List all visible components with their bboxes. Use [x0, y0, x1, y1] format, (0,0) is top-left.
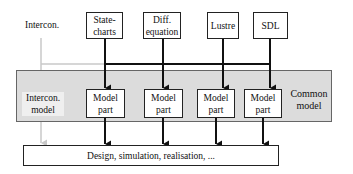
source-label-line2: equation: [146, 26, 179, 38]
intercon-model-line2: model: [22, 104, 64, 116]
model-part-line1: Model: [204, 92, 229, 104]
model-part-box: Model part: [86, 89, 125, 118]
model-part-line1: Model: [151, 92, 176, 104]
source-label-line2: charts: [93, 26, 116, 38]
model-part-line1: Model: [251, 92, 276, 104]
common-model-line2: model: [287, 100, 331, 112]
source-box-sdl: SDL: [253, 12, 288, 39]
model-part-line2: part: [98, 104, 113, 116]
common-model-label: Common model: [287, 88, 331, 112]
common-model-line1: Common: [287, 88, 331, 100]
model-part-line2: part: [209, 104, 224, 116]
target-box: Design, simulation, realisation, ...: [23, 145, 279, 166]
intercon-model-line1: Intercon.: [22, 92, 64, 104]
source-box-statecharts: State- charts: [86, 12, 123, 39]
target-label: Design, simulation, realisation, ...: [87, 150, 215, 162]
model-part-box: Model part: [144, 89, 183, 118]
model-part-box: Model part: [197, 89, 235, 118]
source-box-diff-equation: Diff. equation: [143, 12, 181, 39]
model-part-line2: part: [156, 104, 171, 116]
source-label: SDL: [262, 20, 280, 32]
model-part-box: Model part: [244, 89, 282, 118]
intercon-label: Intercon.: [18, 19, 66, 31]
source-label-line1: Diff.: [153, 14, 171, 26]
source-box-lustre: Lustre: [207, 12, 239, 39]
model-part-line1: Model: [93, 92, 118, 104]
source-label-line1: State-: [93, 14, 115, 26]
model-part-line2: part: [256, 104, 271, 116]
source-label: Lustre: [211, 20, 235, 32]
intercon-model-label: Intercon. model: [22, 92, 64, 116]
